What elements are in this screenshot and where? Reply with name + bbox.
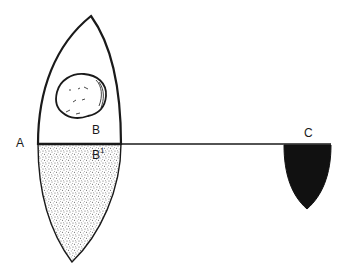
- object-b-blob: [56, 74, 106, 118]
- label-b: B: [92, 124, 100, 136]
- label-b1: B1: [92, 149, 104, 161]
- label-b1-base: B: [92, 148, 100, 162]
- vessel-lower-submerged: [38, 144, 121, 262]
- label-a: A: [16, 137, 24, 149]
- label-b1-superscript: 1: [100, 146, 104, 155]
- label-c: C: [304, 127, 313, 139]
- object-c-solid: [284, 145, 331, 209]
- diagram-canvas: [0, 0, 350, 273]
